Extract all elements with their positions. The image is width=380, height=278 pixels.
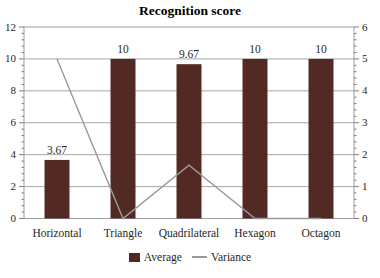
- svg-text:Hexagon: Hexagon: [234, 227, 276, 240]
- svg-text:2: 2: [362, 148, 368, 160]
- svg-text:3: 3: [362, 116, 368, 128]
- svg-text:5: 5: [362, 52, 368, 64]
- svg-text:10: 10: [249, 43, 261, 55]
- svg-text:0: 0: [11, 212, 17, 224]
- svg-text:6: 6: [11, 116, 17, 128]
- legend: Average Variance: [0, 249, 380, 265]
- svg-text:9.67: 9.67: [179, 48, 199, 60]
- svg-text:3.67: 3.67: [47, 144, 67, 156]
- svg-text:0: 0: [362, 212, 368, 224]
- svg-text:10: 10: [117, 43, 129, 55]
- svg-text:6: 6: [362, 21, 368, 33]
- svg-text:Triangle: Triangle: [104, 227, 143, 240]
- svg-text:10: 10: [5, 52, 17, 64]
- svg-text:1: 1: [362, 180, 368, 192]
- svg-text:Quadrilateral: Quadrilateral: [159, 227, 220, 239]
- variance-legend-label: Variance: [211, 251, 251, 263]
- svg-text:12: 12: [5, 21, 16, 33]
- plot-area: 0246810120123456HorizontalTriangleQuadri…: [0, 0, 380, 278]
- recognition-score-chart: Recognition score 0246810120123456Horizo…: [0, 0, 380, 278]
- average-legend-label: Average: [144, 251, 182, 263]
- svg-text:4: 4: [362, 84, 368, 96]
- variance-legend-swatch: [192, 256, 207, 258]
- svg-text:4: 4: [11, 148, 17, 160]
- svg-text:Octagon: Octagon: [302, 227, 341, 240]
- svg-text:10: 10: [315, 43, 327, 55]
- svg-text:2: 2: [11, 180, 17, 192]
- svg-text:Horizontal: Horizontal: [32, 227, 81, 239]
- svg-text:8: 8: [11, 84, 17, 96]
- average-legend-swatch: [129, 253, 140, 262]
